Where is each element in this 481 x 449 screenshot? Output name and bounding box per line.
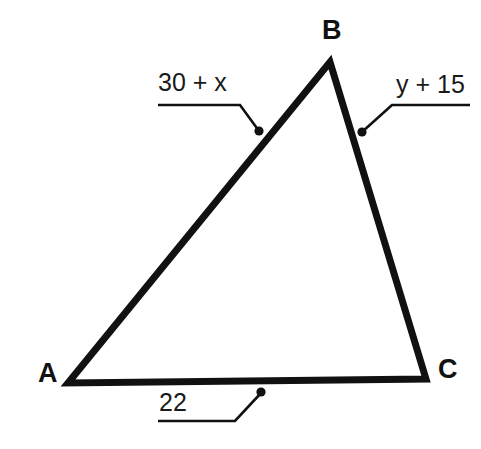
leader-dot-side-ab [254, 126, 263, 135]
side-label-ac: 22 [159, 390, 187, 415]
triangle-outline [68, 62, 426, 383]
vertex-label-c: C [438, 356, 458, 383]
leader-line-side-bc [362, 105, 470, 132]
leader-dot-side-ac [256, 387, 265, 396]
leader-line-side-ab [158, 105, 259, 131]
triangle-figure-canvas [0, 0, 481, 449]
leader-dot-side-bc [357, 127, 366, 136]
side-label-ab: 30 + x [158, 70, 227, 95]
side-label-bc: y + 15 [396, 72, 465, 97]
vertex-label-a: A [38, 360, 58, 387]
vertex-label-b: B [322, 17, 342, 44]
